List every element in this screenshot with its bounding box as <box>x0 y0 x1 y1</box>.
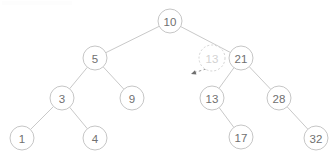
node-label: 28 <box>273 93 286 105</box>
arrow-head-icon <box>191 70 196 74</box>
tree-node-3[interactable]: 3 <box>50 86 74 110</box>
edges-layer <box>30 26 307 129</box>
tree-node-10[interactable]: 10 <box>158 9 182 33</box>
tree-node-1[interactable]: 1 <box>10 126 34 150</box>
tree-edge-3-1 <box>30 106 53 129</box>
tree-graphic: 1052139132814173213 <box>0 0 336 156</box>
node-label: 32 <box>310 133 323 145</box>
node-label: 21 <box>235 53 248 65</box>
tree-edge-10-5 <box>106 26 159 52</box>
binary-tree-diagram: 1052139132814173213 <box>0 0 336 156</box>
annotation-arrow-layer <box>191 69 206 75</box>
node-label: 5 <box>92 53 98 65</box>
tree-edge-3-4 <box>70 107 88 128</box>
tree-edge-13-17 <box>219 108 234 128</box>
tree-edge-21-13 <box>219 68 234 89</box>
tree-edge-28-32 <box>287 107 308 129</box>
node-label: 17 <box>235 132 248 144</box>
tree-edge-5-3 <box>70 67 88 88</box>
node-label: 9 <box>129 93 135 105</box>
node-label: 13 <box>206 93 219 105</box>
tree-node-17[interactable]: 17 <box>229 125 253 149</box>
node-label: 1 <box>19 133 25 145</box>
tree-edge-21-28 <box>249 67 270 90</box>
node-label: 13 <box>206 53 219 65</box>
node-label: 3 <box>59 93 65 105</box>
node-label: 10 <box>164 16 177 28</box>
tree-node-13-ghost[interactable]: 13 <box>199 45 225 71</box>
tree-node-21[interactable]: 21 <box>229 46 253 70</box>
tree-node-13[interactable]: 13 <box>200 86 224 110</box>
tree-node-28[interactable]: 28 <box>267 86 291 110</box>
tree-node-32[interactable]: 32 <box>304 126 328 150</box>
nodes-layer: 1052139132814173213 <box>10 9 328 150</box>
tree-edge-5-9 <box>103 67 124 89</box>
node-label: 4 <box>92 133 99 145</box>
tree-node-9[interactable]: 9 <box>120 86 144 110</box>
tree-node-5[interactable]: 5 <box>83 46 107 70</box>
tree-node-4[interactable]: 4 <box>83 126 107 150</box>
